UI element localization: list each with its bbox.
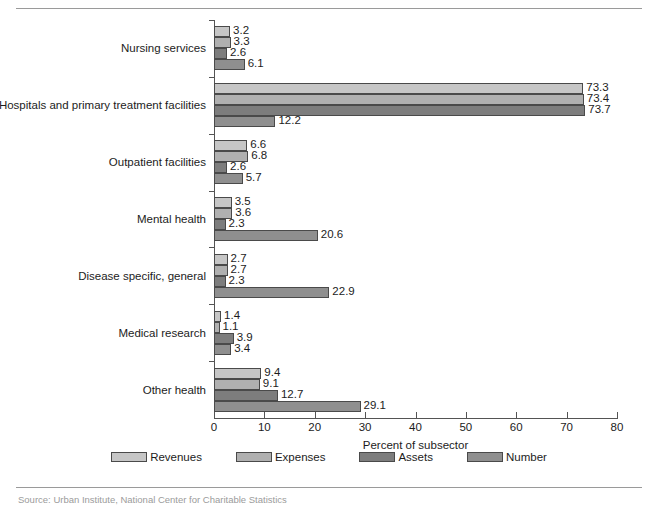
- legend-item-revenues[interactable]: Revenues: [111, 451, 202, 463]
- bar-value-label: 9.1: [263, 377, 279, 390]
- figure-page: 3.23.32.66.173.373.473.712.26.66.82.65.7…: [0, 0, 658, 505]
- x-axis-tick-label: 60: [510, 421, 523, 433]
- y-axis-tick: [209, 361, 214, 362]
- source-note: Source: Urban Institute, National Center…: [18, 494, 287, 505]
- bar-revenues[interactable]: [214, 83, 583, 94]
- y-axis-tick: [209, 304, 214, 305]
- x-axis-tick-label: 0: [211, 421, 217, 433]
- bar-expenses[interactable]: [214, 37, 231, 48]
- x-axis-title: Percent of subsector: [214, 439, 617, 451]
- legend-item-assets[interactable]: Assets: [359, 451, 433, 463]
- y-axis-tick: [209, 134, 214, 135]
- bar-expenses[interactable]: [214, 379, 260, 390]
- category-label: Other health: [143, 384, 206, 396]
- bar-revenues[interactable]: [214, 254, 228, 265]
- bar-value-label: 2.6: [230, 46, 246, 59]
- x-axis-tick: [567, 412, 568, 419]
- category-label: Outpatient facilities: [109, 156, 206, 168]
- legend-label: Number: [506, 451, 547, 463]
- top-divider: [16, 8, 642, 9]
- bar-value-label: 6.8: [251, 149, 267, 162]
- x-axis-tick: [315, 412, 316, 419]
- bar-value-label: 73.7: [588, 103, 610, 116]
- bar-assets[interactable]: [214, 219, 226, 230]
- bar-value-label: 3.4: [234, 342, 250, 355]
- legend-swatch-icon: [467, 452, 503, 462]
- bar-number[interactable]: [214, 287, 329, 298]
- legend-swatch-icon: [111, 452, 147, 462]
- bar-expenses[interactable]: [214, 322, 220, 333]
- x-axis-tick: [617, 412, 618, 419]
- y-axis-tick: [209, 247, 214, 248]
- legend-label: Revenues: [150, 451, 202, 463]
- bar-revenues[interactable]: [214, 197, 232, 208]
- x-axis-tick-label: 80: [611, 421, 624, 433]
- x-axis-tick-label: 40: [409, 421, 422, 433]
- x-axis-tick-label: 70: [560, 421, 573, 433]
- x-axis-tick: [466, 412, 467, 419]
- bar-value-label: 2.3: [229, 217, 245, 230]
- bar-chart: 3.23.32.66.173.373.473.712.26.66.82.65.7…: [0, 14, 658, 414]
- bar-assets[interactable]: [214, 162, 227, 173]
- bottom-divider: [16, 487, 642, 488]
- bar-group: 73.373.473.712.2: [214, 83, 617, 127]
- y-axis-tick: [209, 77, 214, 78]
- category-label: Hospitals and primary treatment faciliti…: [0, 99, 206, 111]
- bar-value-label: 12.7: [281, 388, 303, 401]
- bar-assets[interactable]: [214, 390, 278, 401]
- legend-item-number[interactable]: Number: [467, 451, 547, 463]
- y-axis-tick: [209, 191, 214, 192]
- bar-number[interactable]: [214, 173, 243, 184]
- bar-revenues[interactable]: [214, 140, 247, 151]
- bar-revenues[interactable]: [214, 26, 230, 37]
- plot-area: 3.23.32.66.173.373.473.712.26.66.82.65.7…: [214, 20, 617, 418]
- bar-group: 6.66.82.65.7: [214, 140, 617, 184]
- x-axis-tick: [264, 412, 265, 419]
- y-axis-tick: [209, 20, 214, 21]
- bar-group: 3.23.32.66.1: [214, 26, 617, 70]
- x-axis-tick-label: 50: [459, 421, 472, 433]
- category-label: Nursing services: [121, 42, 206, 54]
- bar-number[interactable]: [214, 230, 318, 241]
- bar-revenues[interactable]: [214, 311, 221, 322]
- bar-group: 1.41.13.93.4: [214, 311, 617, 355]
- bar-assets[interactable]: [214, 276, 226, 287]
- x-axis-tick-label: 30: [359, 421, 372, 433]
- legend-swatch-icon: [359, 452, 395, 462]
- x-axis-tick: [365, 412, 366, 419]
- bar-number[interactable]: [214, 401, 361, 412]
- bar-expenses[interactable]: [214, 94, 584, 105]
- bar-number[interactable]: [214, 116, 275, 127]
- legend-label: Expenses: [275, 451, 326, 463]
- category-label: Mental health: [137, 213, 206, 225]
- legend-swatch-icon: [236, 452, 272, 462]
- bar-expenses[interactable]: [214, 265, 228, 276]
- bar-value-label: 12.2: [278, 114, 300, 127]
- x-axis-tick-label: 10: [258, 421, 271, 433]
- bar-assets[interactable]: [214, 48, 227, 59]
- x-axis-tick: [416, 412, 417, 419]
- bar-assets[interactable]: [214, 105, 585, 116]
- legend-label: Assets: [398, 451, 433, 463]
- bar-group: 3.53.62.320.6: [214, 197, 617, 241]
- bar-value-label: 20.6: [321, 228, 343, 241]
- bar-value-label: 2.6: [230, 160, 246, 173]
- x-axis-tick: [214, 412, 215, 419]
- bar-value-label: 22.9: [332, 285, 354, 298]
- x-axis-tick: [516, 412, 517, 419]
- bar-value-label: 29.1: [364, 399, 386, 412]
- bar-value-label: 5.7: [246, 171, 262, 184]
- bar-group: 9.49.112.729.1: [214, 368, 617, 412]
- bar-group: 2.72.72.322.9: [214, 254, 617, 298]
- bar-number[interactable]: [214, 344, 231, 355]
- chart-legend: RevenuesExpensesAssetsNumber: [0, 451, 658, 463]
- x-axis-tick-label: 20: [308, 421, 321, 433]
- category-label: Disease specific, general: [78, 270, 206, 282]
- bar-value-label: 6.1: [248, 57, 264, 70]
- bar-value-label: 2.3: [229, 274, 245, 287]
- category-label: Medical research: [118, 327, 206, 339]
- legend-item-expenses[interactable]: Expenses: [236, 451, 326, 463]
- bar-revenues[interactable]: [214, 368, 261, 379]
- bar-assets[interactable]: [214, 333, 234, 344]
- bar-number[interactable]: [214, 59, 245, 70]
